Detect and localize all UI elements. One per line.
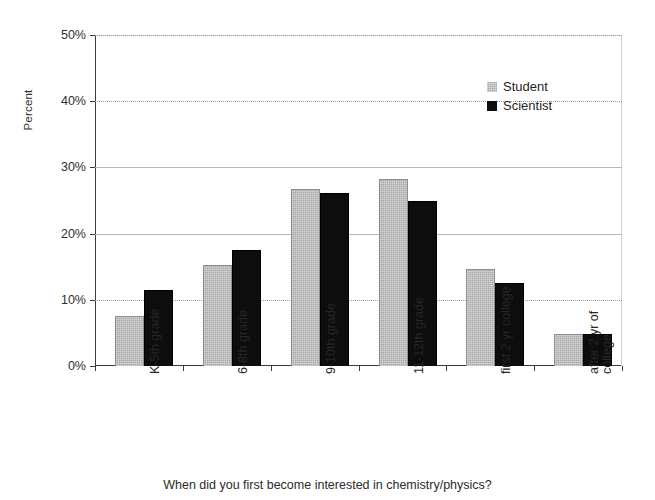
y-axis-tick-label: 40% xyxy=(61,94,86,108)
legend-label-student: Student xyxy=(503,79,548,94)
y-axis-tick-label: 50% xyxy=(61,28,86,42)
bar-student xyxy=(379,179,408,366)
x-axis-tick-mark xyxy=(534,366,535,371)
y-axis-title: Percent xyxy=(22,50,42,170)
x-axis-tick-mark xyxy=(446,366,447,371)
bar-chart-figure: Percent 0%10%20%30%40%50% K-5th grade6-8… xyxy=(0,0,655,500)
x-axis-category-label: first 2 yr college xyxy=(500,278,513,374)
x-axis-tick-mark xyxy=(95,366,96,371)
x-axis-tick-mark xyxy=(359,366,360,371)
legend: Student Scientist xyxy=(487,77,607,115)
y-axis-tick-label: 0% xyxy=(68,359,86,373)
legend-item-scientist: Scientist xyxy=(487,96,607,115)
bar-student xyxy=(466,269,495,366)
y-axis-tick-label: 20% xyxy=(61,227,86,241)
x-axis-tick-mark xyxy=(271,366,272,371)
bar-student xyxy=(554,334,583,366)
bar-group xyxy=(359,35,447,366)
legend-swatch-student-icon xyxy=(487,82,497,92)
legend-swatch-scientist-icon xyxy=(487,101,497,111)
bar-group xyxy=(183,35,271,366)
legend-label-scientist: Scientist xyxy=(503,98,552,113)
bar-group xyxy=(95,35,183,366)
x-axis-category-label: K-5th grade xyxy=(149,278,162,374)
x-axis-tick-mark xyxy=(183,366,184,371)
x-axis-category-label: 9-10th grade xyxy=(325,278,338,374)
x-axis-category-label: after 2 yr of college xyxy=(588,278,614,374)
bar-student xyxy=(115,316,144,366)
x-axis-category-label: 6-8th grade xyxy=(237,278,250,374)
legend-item-student: Student xyxy=(487,77,607,96)
x-axis-title: When did you first become interested in … xyxy=(0,478,655,492)
x-axis-category-label: 11-12th grade xyxy=(413,278,426,374)
bar-group xyxy=(271,35,359,366)
y-axis-tick-label: 30% xyxy=(61,160,86,174)
bar-student xyxy=(203,265,232,366)
y-axis-tick-label: 10% xyxy=(61,293,86,307)
bar-student xyxy=(291,189,320,366)
x-axis-tick-mark xyxy=(622,366,623,371)
